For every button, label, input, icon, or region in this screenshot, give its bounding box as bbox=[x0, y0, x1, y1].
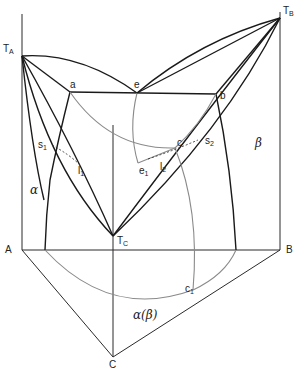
label-s2: s2 bbox=[205, 136, 214, 147]
label-l1: l1 bbox=[78, 166, 84, 177]
label-C: C bbox=[109, 360, 116, 370]
liquidus-TB-e bbox=[137, 18, 280, 93]
liquidus-TA-TC-inner bbox=[22, 56, 113, 236]
projection-a-c bbox=[70, 92, 175, 148]
projection-base-curve bbox=[45, 250, 236, 299]
projection-e-e1 bbox=[133, 93, 138, 163]
liquidus-TB-TC-inner bbox=[113, 18, 280, 236]
base-BC bbox=[113, 250, 280, 357]
label-TA: TA bbox=[3, 44, 14, 55]
label-l2: l2 bbox=[160, 162, 166, 173]
label-A: A bbox=[5, 245, 12, 255]
label-alpha-beta: α(β) bbox=[133, 309, 157, 321]
eutectic-tie-line bbox=[70, 92, 216, 94]
label-c1: c1 bbox=[185, 284, 194, 295]
label-a: a bbox=[70, 80, 76, 90]
label-B: B bbox=[286, 245, 293, 255]
solidus-TA-TC-outer bbox=[22, 56, 113, 236]
label-c: c bbox=[177, 138, 182, 148]
label-e: e bbox=[134, 80, 140, 90]
TA-a bbox=[22, 56, 70, 92]
label-alpha: α bbox=[30, 184, 38, 196]
label-e1: e1 bbox=[139, 166, 148, 177]
label-beta: β bbox=[255, 137, 262, 149]
label-TB: TB bbox=[283, 6, 294, 17]
solvus-alpha-left bbox=[22, 56, 44, 200]
label-TC: TC bbox=[117, 236, 128, 247]
base-AC bbox=[22, 250, 113, 357]
label-s1: s1 bbox=[38, 140, 47, 151]
label-b: b bbox=[220, 91, 226, 101]
